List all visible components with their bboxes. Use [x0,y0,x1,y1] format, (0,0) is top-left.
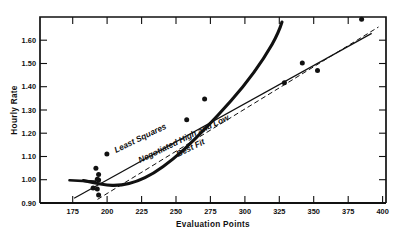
y-tick-label: 1.10 [22,152,36,161]
negotiated-high-low-line [98,27,379,199]
data-point [300,60,305,65]
x-tick-label: 175 [67,207,79,216]
data-point [202,96,207,101]
frame-border [40,17,386,203]
best-fit-left-tail [70,180,96,181]
data-point [96,172,101,177]
chart-figure: 0.90 1.00 1.10 1.20 1.30 1.40 1.50 1.60 [0,0,406,249]
data-point [91,186,96,191]
x-tick-label: 275 [204,207,216,216]
x-tick-label: 375 [342,207,354,216]
best-fit-curve [83,22,282,185]
y-tick-label: 1.00 [22,175,36,184]
y-axis-title: Hourly Rate [10,85,19,134]
data-point [93,166,98,171]
x-axis-tick-labels: 175 200 225 250 275 300 325 350 375 400 [67,207,389,216]
x-tick-label: 300 [239,207,251,216]
data-point [315,68,320,73]
x-tick-label: 225 [135,207,147,216]
x-tick-label: 250 [170,207,182,216]
plot-frame [40,17,386,203]
y-tick-label: 1.20 [22,129,36,138]
x-tick-label: 350 [308,207,320,216]
data-point [184,117,189,122]
x-axis-ticks [73,17,383,203]
x-axis-title: Evaluation Points [176,220,250,229]
y-tick-label: 1.40 [22,82,36,91]
y-tick-label: 0.90 [22,199,36,208]
y-axis-tick-labels: 0.90 1.00 1.10 1.20 1.30 1.40 1.50 1.60 [22,36,36,208]
x-tick-label: 200 [101,207,113,216]
data-point [95,186,100,191]
y-tick-label: 1.50 [22,59,36,68]
data-point [96,178,101,183]
data-point [282,80,287,85]
scatter-plot: 0.90 1.00 1.10 1.20 1.30 1.40 1.50 1.60 [0,0,406,249]
data-point [104,152,109,157]
x-tick-label: 400 [376,207,388,216]
y-tick-label: 1.60 [22,36,36,45]
data-point [359,17,364,22]
y-tick-label: 1.30 [22,106,36,115]
data-point [96,193,101,198]
x-tick-label: 325 [273,207,285,216]
negotiated-high-low-label: Negotiated High and Low [136,112,230,165]
